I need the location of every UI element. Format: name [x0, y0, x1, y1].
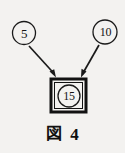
arrow-from-input-a: [29, 46, 56, 78]
output-square-inner: [55, 83, 83, 109]
input-a-circle: [13, 22, 36, 45]
figure-caption: 図 4: [0, 121, 125, 147]
arrow-from-input-b: [81, 45, 99, 78]
output-circle: [58, 85, 80, 107]
input-b-circle: [93, 20, 117, 44]
figure-4-diagram: 5 10 15 図 4: [0, 0, 125, 153]
figure-caption-word: 図: [46, 126, 62, 142]
figure-caption-number: 4: [70, 126, 79, 143]
